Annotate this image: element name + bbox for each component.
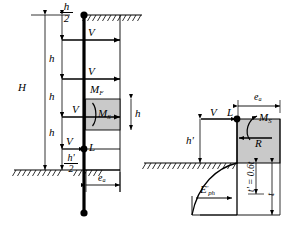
label-h-3: h <box>49 127 55 138</box>
label-Eph: E'ph <box>200 184 215 196</box>
label-h-1: h <box>49 53 55 64</box>
label-t: t <box>265 193 276 196</box>
label-H: H <box>18 82 26 93</box>
label-L-right: L <box>227 107 233 118</box>
wall-top-node <box>80 11 87 18</box>
label-ea-left: ea <box>98 173 106 184</box>
wall-bottom-node <box>80 209 87 216</box>
label-MS-right: MS <box>259 112 272 124</box>
label-V-right: V <box>210 107 217 118</box>
left-lower-ground-hatching <box>13 170 103 176</box>
label-h-over-2: h 2 <box>60 1 73 24</box>
label-t-prime: t' = 0.6t <box>247 162 257 192</box>
label-h-prime-over-2: h' 2 <box>64 153 78 174</box>
label-R: R <box>255 138 262 149</box>
label-h-2: h <box>49 91 55 102</box>
right-ground-hatching <box>143 163 237 169</box>
label-h-prime-right: h' <box>186 135 194 146</box>
label-block-height-h: h <box>135 108 141 119</box>
label-L-left: L <box>89 142 95 153</box>
label-V-4: V <box>66 136 73 147</box>
load-point-node-right <box>234 116 241 123</box>
label-ea-right: ea <box>254 92 262 103</box>
label-MS-left: MS <box>98 108 111 120</box>
left-ground-hatching <box>83 15 142 21</box>
engineering-diagram <box>0 0 285 229</box>
label-V-2: V <box>88 66 95 77</box>
label-V-1: V <box>88 27 95 38</box>
label-MF: MF <box>90 84 103 96</box>
label-V-3: V <box>72 104 79 115</box>
